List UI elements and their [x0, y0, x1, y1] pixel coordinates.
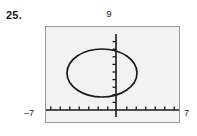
- problem-number-label: 25.: [6, 9, 22, 21]
- window-ymax-label: 9: [106, 9, 111, 19]
- window-xmax-label: 7: [184, 108, 189, 118]
- calculator-viewing-window: [45, 26, 180, 123]
- graph-plot: [46, 27, 179, 122]
- ellipse-curve: [67, 49, 137, 97]
- window-xmin-label: –7: [24, 108, 34, 118]
